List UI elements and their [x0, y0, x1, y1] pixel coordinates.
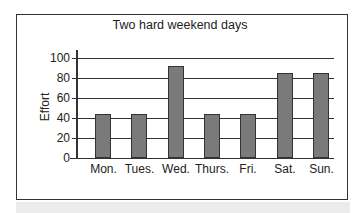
- y-tick-label: 40: [48, 111, 70, 125]
- bar-thurs: [204, 114, 220, 158]
- chart-title: Two hard weekend days: [0, 18, 360, 32]
- x-tick-label: Wed.: [156, 162, 196, 176]
- y-tick-label: 100: [48, 51, 70, 65]
- bar-mon: [95, 114, 111, 158]
- y-tick-label: 60: [48, 91, 70, 105]
- x-tick-label: Fri.: [228, 162, 268, 176]
- y-axis: [76, 50, 78, 159]
- gridline: [72, 78, 334, 79]
- x-tick-label: Tues.: [120, 162, 160, 176]
- bar-sun: [313, 73, 329, 158]
- y-tick-label: 80: [48, 71, 70, 85]
- x-tick-label: Thurs.: [192, 162, 232, 176]
- bar-wed: [168, 66, 184, 158]
- gridline: [72, 58, 334, 59]
- bar-sat: [277, 73, 293, 158]
- x-tick-label: Mon.: [84, 162, 124, 176]
- y-tick-label: 20: [48, 131, 70, 145]
- gridline: [70, 158, 334, 159]
- y-tick-label: 0: [48, 151, 70, 165]
- bar-tues: [131, 114, 147, 158]
- bottom-band: [16, 202, 350, 213]
- gridline: [72, 98, 334, 99]
- x-tick-label: Sun.: [302, 162, 342, 176]
- bar-fri: [240, 114, 256, 158]
- x-tick-label: Sat.: [265, 162, 305, 176]
